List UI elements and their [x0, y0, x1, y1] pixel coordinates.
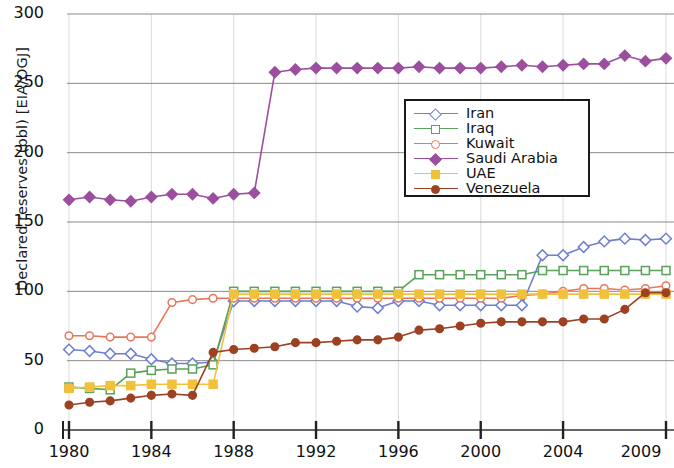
- y-tick-label: 100: [0, 280, 44, 299]
- data-point-marker: [580, 315, 588, 323]
- data-point-marker: [353, 290, 361, 298]
- data-point-marker: [250, 290, 258, 298]
- data-point-marker: [84, 192, 95, 203]
- plot-area: [0, 0, 674, 468]
- data-point-marker: [415, 290, 423, 298]
- data-point-marker: [65, 332, 73, 340]
- data-point-marker: [189, 380, 197, 388]
- data-point-marker: [456, 290, 464, 298]
- data-point-marker: [538, 267, 546, 275]
- data-point-marker: [106, 333, 114, 341]
- data-point-marker: [477, 271, 485, 279]
- y-tick-label: 50: [0, 350, 44, 369]
- data-point-marker: [621, 306, 629, 314]
- legend-marker-icon: [429, 108, 442, 121]
- data-point-marker: [621, 290, 629, 298]
- data-point-marker: [189, 296, 197, 304]
- legend-item-saudi-arabia[interactable]: Saudi Arabia: [414, 151, 582, 166]
- legend-swatch: [414, 152, 458, 166]
- data-point-marker: [127, 382, 135, 390]
- series-line: [69, 271, 666, 390]
- data-point-marker: [311, 63, 322, 74]
- data-point-marker: [641, 267, 649, 275]
- data-point-marker: [271, 343, 279, 351]
- data-point-marker: [599, 59, 610, 70]
- data-point-marker: [518, 290, 526, 298]
- data-point-marker: [64, 344, 75, 355]
- legend-swatch: [414, 182, 458, 196]
- data-point-marker: [167, 189, 178, 200]
- data-point-marker: [228, 189, 239, 200]
- data-point-marker: [642, 289, 650, 297]
- data-point-marker: [662, 289, 670, 297]
- data-point-marker: [189, 365, 197, 373]
- data-point-marker: [147, 380, 155, 388]
- data-point-marker: [333, 290, 341, 298]
- data-point-marker: [374, 290, 382, 298]
- data-point-marker: [269, 67, 280, 78]
- x-tick-label: 1996: [363, 442, 433, 461]
- data-point-marker: [230, 290, 238, 298]
- series-line: [69, 294, 666, 388]
- legend-label: Saudi Arabia: [458, 151, 558, 166]
- data-point-marker: [290, 64, 301, 75]
- data-point-marker: [415, 326, 423, 334]
- data-point-marker: [86, 332, 94, 340]
- data-point-marker: [619, 233, 630, 244]
- legend: IranIraqKuwaitSaudi ArabiaUAEVenezuela: [404, 99, 590, 197]
- data-point-marker: [477, 319, 485, 327]
- data-point-marker: [333, 337, 341, 345]
- data-point-marker: [538, 290, 546, 298]
- legend-marker-icon: [431, 185, 440, 194]
- data-point-marker: [661, 53, 672, 64]
- data-point-marker: [353, 336, 361, 344]
- x-tick-label: 2000: [446, 442, 516, 461]
- data-point-marker: [580, 290, 588, 298]
- reserves-line-chart: Declared reserves (bbl) [EIA/OGJ] 050100…: [0, 0, 674, 468]
- data-point-marker: [86, 383, 94, 391]
- data-point-marker: [558, 60, 569, 71]
- data-point-marker: [517, 300, 528, 311]
- data-point-marker: [148, 333, 156, 341]
- legend-label: Iraq: [458, 121, 494, 136]
- data-point-marker: [374, 336, 382, 344]
- legend-item-iraq[interactable]: Iraq: [414, 121, 582, 136]
- series-line: [69, 239, 666, 364]
- data-point-marker: [414, 61, 425, 72]
- legend-item-uae[interactable]: UAE: [414, 166, 582, 181]
- x-tick-label: 1992: [281, 442, 351, 461]
- legend-item-kuwait[interactable]: Kuwait: [414, 136, 582, 151]
- legend-item-iran[interactable]: Iran: [414, 106, 582, 121]
- data-point-marker: [125, 348, 136, 359]
- data-point-marker: [477, 290, 485, 298]
- data-point-marker: [496, 61, 507, 72]
- data-point-marker: [127, 369, 135, 377]
- legend-item-venezuela[interactable]: Venezuela: [414, 181, 582, 196]
- data-point-marker: [105, 194, 116, 205]
- data-point-marker: [65, 384, 73, 392]
- legend-marker-icon: [431, 170, 440, 179]
- y-tick-label: 0: [0, 419, 44, 438]
- data-point-marker: [518, 271, 526, 279]
- data-point-marker: [537, 250, 548, 261]
- data-point-marker: [127, 333, 135, 341]
- data-point-marker: [393, 63, 404, 74]
- data-point-marker: [539, 318, 547, 326]
- data-point-marker: [599, 236, 610, 247]
- data-point-marker: [127, 394, 135, 402]
- data-point-marker: [436, 325, 444, 333]
- data-point-marker: [189, 392, 197, 400]
- data-point-marker: [497, 271, 505, 279]
- data-point-marker: [352, 63, 363, 74]
- data-point-marker: [209, 380, 217, 388]
- data-point-marker: [209, 349, 217, 357]
- data-point-marker: [600, 315, 608, 323]
- legend-label: Kuwait: [458, 136, 514, 151]
- data-point-marker: [106, 382, 114, 390]
- data-point-marker: [106, 397, 114, 405]
- data-point-marker: [125, 196, 136, 207]
- legend-label: Venezuela: [458, 181, 540, 196]
- data-point-marker: [292, 339, 300, 347]
- data-point-marker: [640, 235, 651, 246]
- data-point-marker: [64, 194, 75, 205]
